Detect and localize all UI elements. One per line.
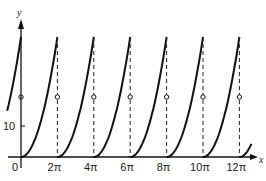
jump-midpoint-marker [164, 95, 168, 99]
x-tick-label: 0 [12, 161, 18, 173]
jump-midpoint-marker [128, 95, 132, 99]
x-tick-label: 12π [226, 161, 246, 173]
jump-midpoint-marker [237, 95, 241, 99]
x-axis-arrow-icon [250, 154, 258, 160]
x-axis-label: x [258, 154, 264, 165]
chart: y x 10 02π4π6π8π10π12π [0, 0, 266, 181]
x-tick-label: 10π [190, 161, 210, 173]
jump-midpoint-markers [19, 95, 242, 99]
x-tick-label: 4π [84, 161, 98, 173]
x-tick-label: 8π [157, 161, 171, 173]
x-tick-label: 6π [120, 161, 134, 173]
y-tick-label: 10 [3, 120, 15, 132]
jump-midpoint-marker [92, 95, 96, 99]
y-axis-label: y [16, 7, 22, 18]
jump-dashed-lines [57, 37, 239, 157]
jump-midpoint-marker [201, 95, 205, 99]
y-axis-arrow-icon [18, 19, 24, 29]
jump-midpoint-marker [55, 95, 59, 99]
x-tick-labels: 02π4π6π8π10π12π [12, 161, 247, 173]
x-tick-label: 2π [48, 161, 62, 173]
